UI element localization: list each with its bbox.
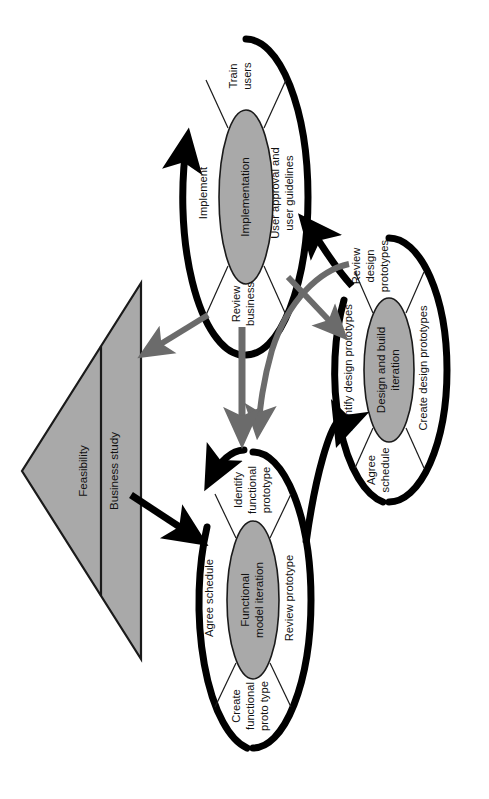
activity-label-review-design-prototypes-line2: design — [364, 250, 376, 283]
activity-label-agree-schedule-line1: Agree — [365, 455, 377, 485]
activity-label-review-design-prototypes-line3: prototypes — [378, 239, 390, 292]
activity-label-agree-schedule-line2: schedule — [379, 448, 391, 493]
activity-label-identify-design-prototypes: Identify design prototypes — [342, 304, 354, 432]
cycle-functional-model-iteration: Functional model iteration Identify func… — [199, 450, 311, 748]
activity-label-agree-schedule: Agree schedule — [203, 559, 215, 637]
dsdm-lifecycle-diagram: Feasibility Business study Implementatio… — [0, 0, 489, 799]
activity-label-review-design-prototypes-line1: Review — [350, 247, 362, 285]
activity-label-review-business-line1: Review — [230, 285, 242, 323]
activity-label-identify-functional-prototype-line1: Identify — [232, 472, 244, 508]
activity-label-train-users-line1: Train — [227, 63, 239, 88]
connector-implementation-to-business-study — [146, 315, 208, 353]
feasibility-business-study-triangle: Feasibility Business study — [22, 283, 141, 659]
activity-label-user-approval-line1: User approval and — [269, 147, 281, 238]
triangle-label-feasibility: Feasibility — [76, 445, 89, 497]
triangle-label-business-study: Business study — [107, 432, 120, 510]
activity-label-identify-functional-prototype-line3: prototype — [260, 467, 272, 514]
activity-label-create-design-prototypes: Create design prototypes — [417, 305, 429, 430]
activity-label-create-functional-proto-type-line1: Create — [230, 689, 242, 723]
design-build-core-label-line2: iteration — [388, 349, 401, 390]
diagram-canvas: Feasibility Business study Implementatio… — [0, 0, 489, 799]
connector-design-build-to-implementation — [306, 223, 352, 286]
activity-label-train-users-line2: users — [241, 62, 253, 90]
implementation-core-label: Implementation — [238, 157, 251, 236]
cycle-design-and-build-iteration: Design and build iteration Review design… — [335, 238, 447, 502]
activity-label-user-approval-line2: user guidelines — [283, 155, 295, 231]
activity-label-create-functional-proto-type-line3: proto type — [258, 681, 270, 731]
design-build-core-label-line1: Design and build — [374, 327, 387, 413]
connector-functional-model-to-design-build — [306, 419, 343, 543]
activity-label-review-prototype: Review prototype — [283, 555, 295, 641]
activity-label-identify-functional-prototype-line2: functional — [246, 466, 258, 514]
functional-model-core-label-line1: Functional — [238, 573, 251, 627]
activity-label-implement: Implement — [197, 166, 209, 219]
activity-label-review-business-line2: business — [244, 282, 256, 327]
activity-label-create-functional-proto-type-line2: functional — [244, 682, 256, 730]
functional-model-core-label-line2: model iteration — [252, 562, 265, 638]
